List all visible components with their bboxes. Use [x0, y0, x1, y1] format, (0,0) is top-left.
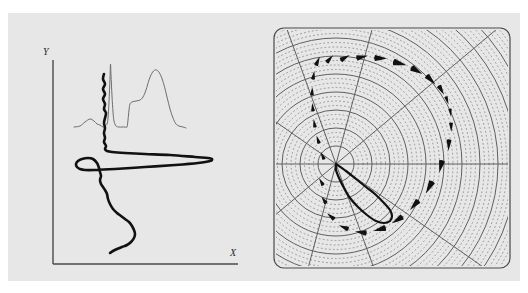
thin-spectrum-curve: [74, 64, 186, 128]
thick-response-curve: [76, 74, 212, 253]
polar-solid-rings: [266, 13, 520, 281]
x-axis-label: X: [229, 247, 237, 258]
polar-panel: [266, 13, 520, 281]
figure-plate: Y X: [8, 13, 520, 281]
dashed-comet-curve: [310, 53, 453, 236]
cartesian-panel: Y X: [8, 13, 266, 281]
figure-root: Y X: [0, 0, 528, 293]
polar-plot-svg: [266, 13, 520, 281]
cartesian-plot-svg: Y X: [8, 13, 266, 281]
y-axis-label: Y: [43, 46, 50, 57]
